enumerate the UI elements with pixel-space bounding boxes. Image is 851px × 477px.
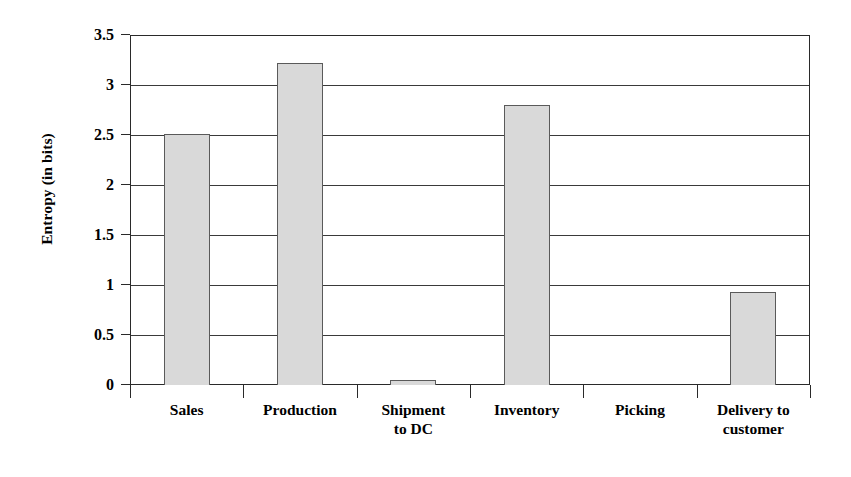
y-tick-2.5	[121, 134, 130, 135]
bar-shipment-to-dc	[390, 380, 436, 385]
x-axis-boundary-tick-2	[357, 385, 358, 398]
x-axis-boundary-tick-5	[697, 385, 698, 398]
y-axis-label-1.5: 1.5	[66, 227, 114, 243]
bar-production	[277, 63, 323, 385]
y-axis-label-2.5: 2.5	[66, 127, 114, 143]
x-axis-label-delivery-to-customer: Delivery tocustomer	[687, 401, 820, 439]
y-tick-1.5	[121, 234, 130, 235]
bar-delivery-to-customer	[730, 292, 776, 385]
x-axis-edge-tick-0	[130, 385, 131, 398]
bar-series	[130, 35, 810, 385]
y-axis-label-0.5: 0.5	[66, 327, 114, 343]
y-axis-label-3.5: 3.5	[66, 27, 114, 43]
y-axis-label-0: 0	[66, 377, 114, 393]
y-tick-0	[121, 384, 130, 385]
y-tick-0.5	[121, 334, 130, 335]
x-axis-labels: SalesProductionShipmentto DCInventoryPic…	[130, 401, 810, 471]
y-tick-1	[121, 284, 130, 285]
y-axis-label-1: 1	[66, 277, 114, 293]
y-axis-label-2: 2	[66, 177, 114, 193]
x-axis-boundary-tick-4	[583, 385, 584, 398]
bar-sales	[164, 134, 210, 385]
x-axis-edge-tick-6	[810, 385, 811, 398]
bar-inventory	[504, 105, 550, 385]
y-tick-3.5	[121, 34, 130, 35]
y-tick-2	[121, 184, 130, 185]
y-tick-3	[121, 84, 130, 85]
bar-chart: Entropy (in bits) 00.511.522.533.5 Sales…	[0, 0, 851, 477]
x-axis-boundary-tick-3	[470, 385, 471, 398]
x-axis-boundary-tick-1	[243, 385, 244, 398]
y-axis-title: Entropy (in bits)	[38, 79, 56, 299]
y-axis-label-3: 3	[66, 77, 114, 93]
